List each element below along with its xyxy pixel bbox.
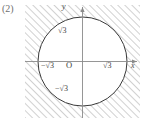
item-number-label: (2) [2, 3, 14, 15]
x-axis-label: x [131, 61, 135, 70]
tick-label-y-positive: √3 [58, 26, 66, 36]
origin-label: O [66, 60, 72, 70]
figure-root: (2) [0, 0, 143, 123]
y-axis [80, 7, 84, 118]
tick-label-x-positive: √3 [103, 61, 111, 71]
y-axis-label: y [62, 2, 66, 11]
tick-label-x-negative: −√3 [41, 61, 54, 71]
tick-label-y-negative: −√3 [55, 84, 68, 94]
